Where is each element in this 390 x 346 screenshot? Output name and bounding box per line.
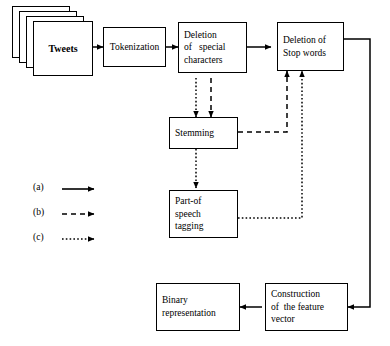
legend-key-c: (c) [33,232,44,242]
construction-line-3: vector [271,313,342,326]
deletion-stop-line-1: Deletion of [283,34,338,47]
node-tokenization[interactable]: Tokenization [103,27,166,67]
edge-stemming-to-stop-words-dashed [238,71,287,132]
legend-item-b: (b) [33,207,44,217]
construction-line-2: of the feature [271,301,342,314]
legend-key-b: (b) [33,207,44,217]
deletion-special-line-3: characters [184,54,241,67]
stemming-line-1: Stemming [175,127,232,140]
deletion-stop-line-2: Stop words [283,47,338,60]
node-binary-representation[interactable]: Binary representation [156,283,240,331]
node-pos-tagging[interactable]: Part-of speech tagging [169,190,238,238]
deletion-special-line-2: of special [184,41,241,54]
legend-item-c: (c) [33,232,44,242]
tokenization-line-1: Tokenization [109,41,160,54]
construction-line-1: Construction [271,288,342,301]
node-stemming[interactable]: Stemming [169,117,238,149]
node-tweets[interactable]: Tweets [12,6,98,80]
edge-pos-tagging-to-stop-words [238,71,302,218]
node-deletion-special-characters[interactable]: Deletion of special characters [178,22,247,73]
legend-item-a: (a) [33,182,44,192]
deletion-special-line-1: Deletion [184,29,241,42]
pos-tagging-line-1: Part-of [175,195,232,208]
tweets-label: Tweets [48,43,77,54]
binary-line-2: representation [162,307,234,320]
edge-stop-words-to-construction [344,39,370,307]
legend-key-a: (a) [33,182,44,192]
pos-tagging-line-3: tagging [175,220,232,233]
node-deletion-stop-words[interactable]: Deletion of Stop words [277,22,344,71]
node-construction-feature-vector[interactable]: Construction of the feature vector [265,283,348,331]
pos-tagging-line-2: speech [175,208,232,221]
tweets-sheet-front: Tweets [33,21,93,76]
binary-line-1: Binary [162,294,234,307]
